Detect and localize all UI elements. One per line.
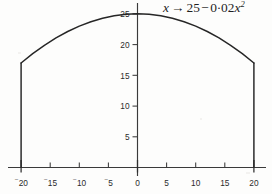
x-tick-label--15: ⁻15 — [43, 175, 57, 188]
x-tick-label--20: ⁻20 — [14, 175, 28, 188]
title-exponent: 2 — [241, 0, 245, 9]
title-constant: 25 — [187, 0, 201, 15]
x-tick-label--5: ⁻5 — [104, 175, 113, 188]
title-decimal-point: · — [217, 0, 222, 15]
title-coef-integer: 0 — [210, 0, 217, 15]
plot-canvas: 25 20 15 10 5 ⁻20 ⁻15 ⁻10 ⁻5 0 5 10 15 2… — [0, 0, 272, 194]
y-tick-label-10: 10 — [120, 101, 130, 111]
x-tick-label-10: 10 — [191, 178, 201, 188]
y-tick-label-25: 25 — [120, 9, 130, 19]
title-arrow-icon: → — [169, 0, 187, 15]
title-coef-fraction: 02 — [221, 0, 235, 15]
y-tick-label-5: 5 — [125, 132, 130, 142]
x-tick-label-15: 15 — [220, 178, 230, 188]
title-minus-operator: − — [200, 0, 210, 15]
y-tick-label-20: 20 — [120, 40, 130, 50]
x-tick-label-20: 20 — [249, 178, 259, 188]
parabola-figure: 25 20 15 10 5 ⁻20 ⁻15 ⁻10 ⁻5 0 5 10 15 2… — [0, 0, 272, 194]
function-title: x→25−0·02x2 — [163, 0, 245, 16]
y-tick-label-15: 15 — [120, 71, 130, 81]
x-tick-label-5: 5 — [164, 178, 169, 188]
x-tick-label--10: ⁻10 — [72, 175, 86, 188]
x-tick-label-0: 0 — [135, 178, 140, 188]
